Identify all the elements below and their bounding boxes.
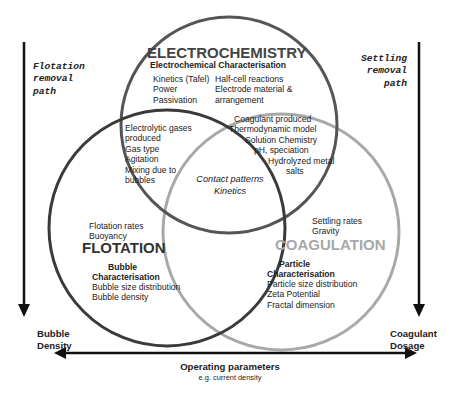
list-item: Electrolytic gases xyxy=(125,123,192,133)
list-item: Fractal dimension xyxy=(267,300,357,310)
coagulation-characterisation-list: Particle size distribution Zeta Potentia… xyxy=(267,279,357,310)
label-line: Coagulant xyxy=(390,328,437,340)
list-item: Hydrolyzed metal xyxy=(226,156,336,166)
bubble-characterisation-heading-1: Bubble xyxy=(108,262,137,272)
flotation-path-arrow xyxy=(18,42,30,317)
list-item: Thermodynamic model xyxy=(226,124,336,134)
label-line: Dosage xyxy=(390,340,437,352)
electrochemistry-list-left: Kinetics (Tafel) Power Passivation xyxy=(153,74,209,105)
particle-characterisation-heading-2: Characterisation xyxy=(267,269,335,279)
flotation-removal-path-label: Flotation removal path xyxy=(33,61,85,98)
coagulation-top-list: Settling rates Gravity xyxy=(312,216,362,237)
list-item: Half-cell reactions xyxy=(215,74,292,84)
list-item: Settling rates xyxy=(312,216,362,226)
particle-characterisation-heading-1: Particle xyxy=(279,259,310,269)
list-item: pH, speciation xyxy=(226,145,336,155)
bubble-density-label: Bubble Density xyxy=(37,328,72,352)
coagulant-dosage-label: Coagulant Dosage xyxy=(390,328,437,352)
label-line: removal xyxy=(33,73,85,85)
electrochemistry-list-right: Half-cell reactions Electrode material &… xyxy=(215,74,292,105)
list-item: produced xyxy=(125,133,192,143)
center-overlap-label: Contact patterns Kinetics xyxy=(170,174,290,197)
list-item: Particle size distribution xyxy=(267,279,357,289)
electrochemistry-title: ELECTROCHEMISTRY xyxy=(147,45,306,61)
flotation-characterisation-list: Bubble size distribution Bubble density xyxy=(92,282,180,303)
label-line: path xyxy=(33,86,85,98)
flotation-title: FLOTATION xyxy=(82,240,166,256)
bubble-characterisation-heading-2: Characterisation xyxy=(92,272,160,282)
list-item: Power xyxy=(153,84,209,94)
list-item: Gas type xyxy=(125,144,192,154)
label-line: Settling xyxy=(361,53,407,65)
settling-path-arrow xyxy=(413,42,425,317)
list-item: Solution Chemistry xyxy=(226,135,336,145)
list-item: Bubble size distribution xyxy=(92,282,180,292)
list-item: Bubble density xyxy=(92,292,180,302)
label-line: Flotation xyxy=(33,61,85,73)
electro-coagulation-overlap-list: Coagulant produced Thermodynamic model S… xyxy=(226,114,336,176)
list-item: Contact patterns xyxy=(170,174,290,186)
list-item: Agitation xyxy=(125,154,192,164)
list-item: Electrode material & xyxy=(215,84,292,94)
label-line: Bubble xyxy=(37,328,72,340)
label-line: path xyxy=(361,78,407,90)
list-item: arrangement xyxy=(215,95,292,105)
settling-removal-path-label: Settling removal path xyxy=(361,53,407,90)
operating-parameters-arrow xyxy=(54,347,417,359)
list-item: Passivation xyxy=(153,95,209,105)
list-item: Kinetics xyxy=(170,186,290,198)
coagulation-title: COAGULATION xyxy=(275,237,386,253)
list-item: Flotation rates xyxy=(89,221,143,231)
list-item: Kinetics (Tafel) xyxy=(153,74,209,84)
label-line: removal xyxy=(361,65,407,77)
operating-parameters-title: Operating parameters xyxy=(160,361,300,372)
operating-parameters-subtitle: e.g. current density xyxy=(160,373,300,382)
list-item: Coagulant produced xyxy=(226,114,336,124)
label-line: Density xyxy=(37,340,72,352)
list-item: Zeta Potential xyxy=(267,289,357,299)
electrochemical-characterisation-heading: Electrochemical Characterisation xyxy=(150,60,286,70)
